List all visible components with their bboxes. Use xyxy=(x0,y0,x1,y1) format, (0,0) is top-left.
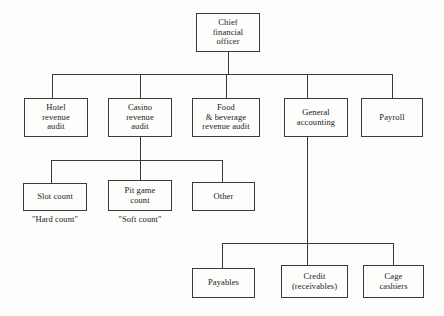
food-line-3: revenue audit xyxy=(195,122,257,132)
payroll-line-1: Payroll xyxy=(364,113,420,123)
node-payroll[interactable]: Payroll xyxy=(361,98,423,137)
node-hotel-revenue-audit[interactable]: Hotel revenue audit xyxy=(24,98,88,137)
node-general-accounting[interactable]: General accounting xyxy=(284,98,348,137)
node-other[interactable]: Other xyxy=(192,182,255,211)
pit-line-2: count xyxy=(111,196,169,206)
node-casino-revenue-audit[interactable]: Casino revenue audit xyxy=(108,98,172,137)
connector-drop-hotel xyxy=(52,74,53,98)
connector-drop-slot-count xyxy=(51,160,52,183)
connector-general-accounting-stem xyxy=(307,137,308,243)
node-pit-game-count[interactable]: Pit game count xyxy=(108,180,172,211)
node-label-pit-game-count: Pit game count xyxy=(111,186,169,205)
node-label-payroll: Payroll xyxy=(364,113,420,123)
node-label-credit-receivables: Credit (receivables) xyxy=(284,272,345,291)
connector-general-accounting-bus xyxy=(222,243,394,244)
node-label-hotel-revenue-audit: Hotel revenue audit xyxy=(27,103,85,132)
node-credit-receivables[interactable]: Credit (receivables) xyxy=(281,265,348,298)
node-cage-cashiers[interactable]: Cage cashiers xyxy=(363,265,424,298)
cage-line-2: cashiers xyxy=(366,282,421,292)
connector-drop-casino xyxy=(140,74,141,98)
node-food-beverage-revenue-audit[interactable]: Food & beverage revenue audit xyxy=(192,98,260,137)
node-label-other: Other xyxy=(195,192,252,202)
connector-drop-general-accounting xyxy=(307,74,308,98)
payables-line-1: Payables xyxy=(195,278,252,288)
node-slot-count[interactable]: Slot count xyxy=(23,183,87,211)
caption-hard-count: "Hard count" xyxy=(23,214,87,224)
connector-drop-food-beverage xyxy=(226,74,227,98)
node-label-slot-count: Slot count xyxy=(26,192,84,202)
node-label-cage-cashiers: Cage cashiers xyxy=(366,272,421,291)
node-label-chief-financial-officer: Chief financial officer xyxy=(199,18,257,47)
other-line-1: Other xyxy=(195,192,252,202)
connector-casino-stem xyxy=(140,137,141,160)
connector-drop-pit-game-count xyxy=(140,160,141,180)
connector-drop-payables xyxy=(222,243,223,268)
node-label-food-beverage-revenue-audit: Food & beverage revenue audit xyxy=(195,103,257,132)
casino-line-3: audit xyxy=(111,122,169,132)
credit-line-2: (receivables) xyxy=(284,282,345,292)
node-label-casino-revenue-audit: Casino revenue audit xyxy=(111,103,169,132)
hotel-line-3: audit xyxy=(27,122,85,132)
slot-line-1: Slot count xyxy=(26,192,84,202)
org-chart: Chief financial officer Hotel revenue au… xyxy=(0,0,444,316)
connector-level2-bus xyxy=(52,74,393,75)
connector-drop-payroll xyxy=(392,74,393,98)
node-label-payables: Payables xyxy=(195,278,252,288)
genacct-line-2: accounting xyxy=(287,118,345,128)
cfo-line-3: officer xyxy=(199,37,257,47)
connector-casino-bus xyxy=(51,160,223,161)
connector-cfo-stem xyxy=(228,52,229,74)
node-payables[interactable]: Payables xyxy=(192,268,255,298)
caption-soft-count: "Soft count" xyxy=(108,214,172,224)
connector-drop-other xyxy=(222,160,223,182)
node-chief-financial-officer[interactable]: Chief financial officer xyxy=(196,13,260,52)
node-label-general-accounting: General accounting xyxy=(287,108,345,127)
